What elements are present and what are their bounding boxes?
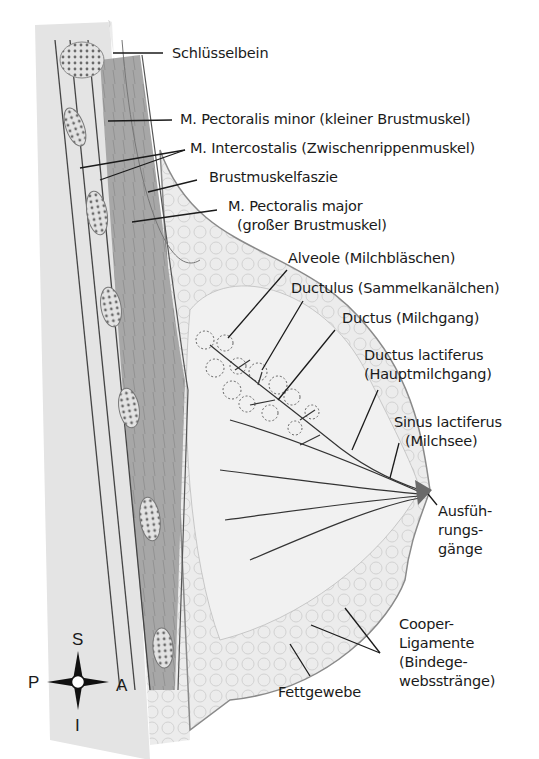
breast-anatomy-diagram: Schlüsselbein M. Pectoralis minor (klein…	[0, 0, 539, 759]
label-pectoralis-major-line2: (großer Brustmuskel)	[237, 217, 387, 234]
label-brustmuskelfaszie: Brustmuskelfaszie	[209, 169, 338, 186]
label-cooper-line2: Ligamente	[399, 635, 474, 652]
compass-superior: S	[72, 630, 83, 650]
label-ductus-lactiferus-line2: (Hauptmilchgang)	[364, 366, 492, 383]
label-sinus-lactiferus-line1: Sinus lactiferus	[394, 414, 502, 431]
label-intercostalis: M. Intercostalis (Zwischenrippenmuskel)	[190, 140, 475, 157]
label-sinus-lactiferus-line2: (Milchsee)	[405, 433, 477, 450]
label-cooper-line3: (Bindege-	[399, 654, 468, 671]
label-ductulus: Ductulus (Sammelkanälchen)	[291, 280, 499, 297]
label-ausfuehrungsgaenge-line2: rungs-	[438, 522, 483, 539]
label-schluesselbein: Schlüsselbein	[172, 45, 268, 62]
label-pectoralis-minor: M. Pectoralis minor (kleiner Brustmuskel…	[180, 111, 470, 128]
label-cooper-line4: websstränge)	[399, 673, 495, 690]
label-pectoralis-major-line1: M. Pectoralis major	[228, 198, 363, 215]
label-ductus-lactiferus-line1: Ductus lactiferus	[364, 347, 483, 364]
label-fettgewebe: Fettgewebe	[278, 684, 361, 701]
label-ausfuehrungsgaenge-line1: Ausfüh-	[438, 503, 492, 520]
label-cooper-line1: Cooper-	[399, 616, 454, 633]
compass-inferior: I	[75, 716, 80, 736]
compass-anterior: A	[116, 676, 127, 696]
label-ductus: Ductus (Milchgang)	[342, 310, 479, 327]
label-alveole: Alveole (Milchbläschen)	[288, 250, 455, 267]
clavicle	[60, 42, 104, 78]
label-ausfuehrungsgaenge-line3: gänge	[438, 541, 482, 558]
compass-posterior: P	[28, 673, 39, 693]
